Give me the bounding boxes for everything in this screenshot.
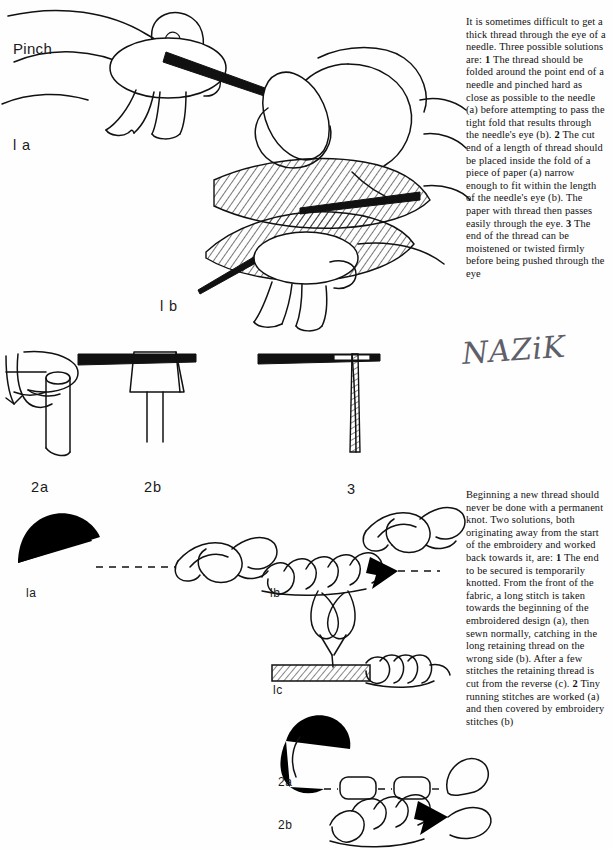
figure-label-thread-1c: lc: [273, 683, 283, 697]
figure-label-thread-1a: la: [26, 586, 36, 600]
text-block-threading-a-needle: It is sometimes difficult to get a thick…: [466, 16, 606, 280]
figure-1a-long-stitch: [18, 513, 176, 567]
text-block-starting-a-thread: Beginning a new thread should never be d…: [466, 489, 608, 728]
figure-label-thread-2a: 2a: [278, 775, 292, 789]
needle-bar-3: [258, 354, 380, 364]
pinch-callout: Pinch: [13, 40, 52, 57]
figure-label-thread-1b: lb: [270, 586, 280, 600]
figure-1b-retaining-thread: [262, 507, 465, 595]
figure-label-thread-2b: 2b: [278, 818, 292, 832]
figure-3-twisted-thread: [350, 354, 360, 452]
figure-2a-paper-fold: [6, 351, 78, 455]
figure-label-1a: l a: [13, 137, 31, 153]
figure-label-1b: l b: [160, 298, 178, 314]
figure-label-2a: 2a: [31, 479, 49, 495]
figure-1b-hand: [198, 159, 470, 331]
figure-1c-cut-from-reverse: [272, 591, 450, 687]
illustration-paper-fold-and-twist: [0, 348, 420, 473]
figure-label-2b: 2b: [144, 479, 162, 495]
figure-2a-running-stitches: [280, 715, 488, 799]
figure-1a-knot: [175, 537, 277, 582]
figure-2b-paper-strip: [130, 352, 184, 442]
illustration-starting-a-thread: [0, 505, 460, 845]
scanned-page: Pinch l a l b: [0, 0, 613, 849]
illustration-hands-pinching-thread: [0, 0, 470, 340]
figure-label-3: 3: [347, 481, 356, 497]
handwritten-signature: NAZiK: [461, 329, 567, 371]
figure-2b-covered-stitches: [330, 795, 491, 847]
